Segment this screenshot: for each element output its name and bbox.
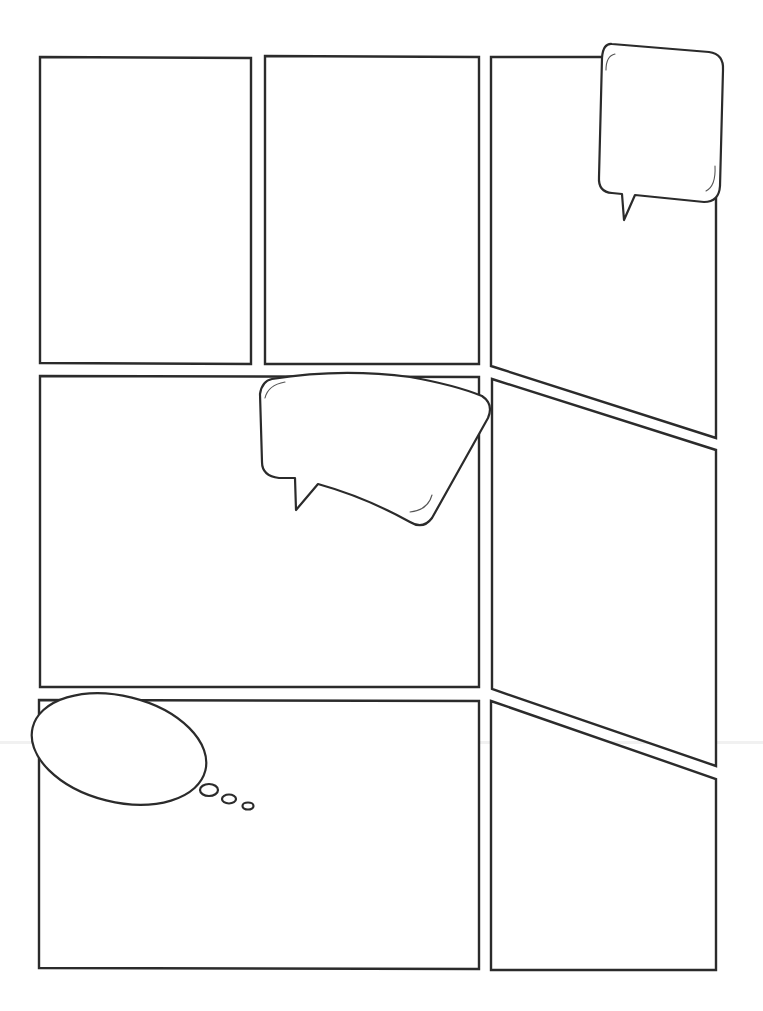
speech-balloon-1[interactable]: [599, 44, 723, 220]
thought-trail-bubble-3: [243, 803, 254, 810]
panel-1[interactable]: [40, 57, 251, 364]
panel-2[interactable]: [265, 56, 479, 364]
thought-trail-bubble-2: [222, 795, 236, 804]
comic-page: [0, 0, 763, 1011]
thought-trail-bubble-1: [200, 784, 218, 796]
panel-5[interactable]: [492, 379, 716, 766]
comic-page-canvas: [0, 0, 763, 1011]
